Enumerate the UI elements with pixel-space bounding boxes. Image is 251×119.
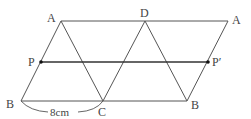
label-P-prime: P′ (212, 55, 222, 69)
label-A: A (47, 11, 56, 25)
point-P (39, 60, 43, 64)
label-B: B (6, 97, 14, 111)
measurement-label: 8cm (50, 106, 69, 118)
label-C: C (98, 105, 106, 119)
edge-A-C (61, 21, 103, 101)
label-D: D (140, 6, 149, 20)
edge-D-B-prime (145, 21, 187, 101)
label-B-prime: B (191, 98, 199, 112)
label-P: P (28, 55, 35, 69)
label-A-prime: A (232, 13, 241, 27)
measurement-arc-B-C (21, 101, 48, 112)
edge-D-C (103, 21, 145, 101)
point-P-prime (206, 60, 210, 64)
geometry-diagram: A D A P P′ B C B 8cm (0, 0, 251, 119)
